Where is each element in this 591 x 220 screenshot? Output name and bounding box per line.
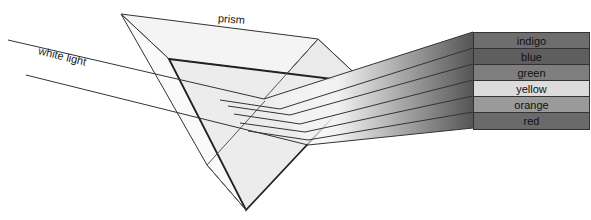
band-blue: blue — [474, 49, 589, 65]
band-yellow: yellow — [474, 81, 589, 97]
spectrum-legend: indigo blue green yellow orange red — [473, 32, 590, 130]
band-green: green — [474, 65, 589, 81]
band-red: red — [474, 113, 589, 129]
prism-label: prism — [218, 12, 246, 26]
band-orange: orange — [474, 97, 589, 113]
band-indigo: indigo — [474, 33, 589, 49]
